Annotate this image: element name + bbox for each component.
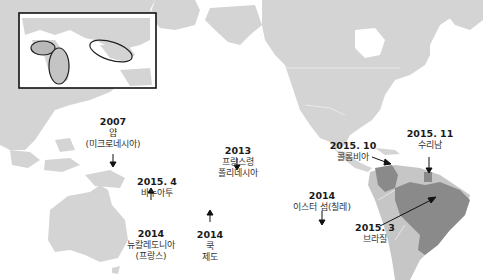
australia-land (48, 185, 128, 262)
event-year: 2014 (282, 190, 362, 202)
event-year: 2015. 11 (405, 128, 455, 140)
event-place-sub: (프랑스) (121, 251, 181, 262)
event-label-easter-island: 2014 이스터 섬(칠레) (282, 190, 362, 213)
alaska-land (150, 0, 200, 30)
event-place: 브라질 (350, 234, 400, 245)
event-year: 2015. 3 (350, 222, 400, 234)
event-place: 뉴칼레도니아 (121, 240, 181, 251)
event-place-sub: 제도 (190, 252, 230, 263)
event-place: 얍 (78, 128, 148, 139)
event-label-colombia: 2015. 10 콜롬비아 (328, 140, 378, 163)
event-year: 2014 (190, 229, 230, 241)
event-year: 2015. 10 (328, 140, 378, 152)
event-place: 바누아투 (132, 188, 182, 199)
event-place: 프랑스령 (210, 157, 266, 168)
event-place-sub: (미크로네시아) (78, 139, 148, 150)
event-year: 2014 (121, 228, 181, 240)
event-place: 쿡 (190, 241, 230, 252)
central-africa-ellipse (49, 48, 69, 84)
event-place-sub: 폴리네시아 (210, 168, 266, 179)
suriname-region (424, 172, 432, 182)
event-place: 콜롬비아 (328, 152, 378, 163)
event-label-yap: 2007 얍 (미크로네시아) (78, 116, 148, 150)
event-label-vanuatu: 2015. 4 바누아투 (132, 176, 182, 199)
event-place: 이스터 섬(칠레) (282, 202, 362, 213)
event-label-new-caledonia: 2014 뉴칼레도니아 (프랑스) (121, 228, 181, 262)
event-label-suriname: 2015. 11 수리남 (405, 128, 455, 151)
event-year: 2015. 4 (132, 176, 182, 188)
inset-map (19, 13, 156, 88)
event-label-french-polynesia: 2013 프랑스령 폴리네시아 (210, 145, 266, 179)
event-place: 수리남 (405, 140, 455, 151)
event-year: 2007 (78, 116, 148, 128)
event-year: 2013 (210, 145, 266, 157)
event-label-cook-islands: 2014 쿡 제도 (190, 229, 230, 263)
west-africa-ellipse (31, 41, 55, 55)
event-label-brazil: 2015. 3 브라질 (350, 222, 400, 245)
